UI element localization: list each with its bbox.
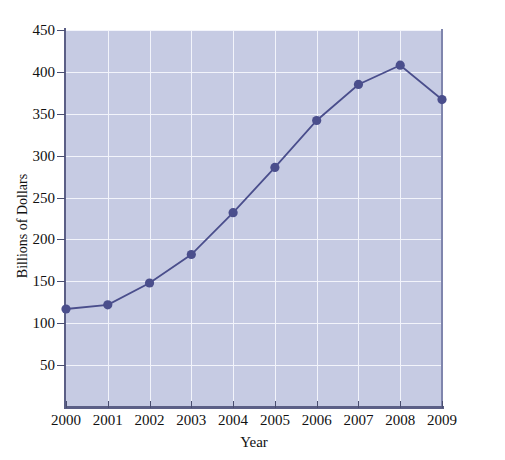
gridline-vertical — [400, 30, 401, 407]
y-tick-mark — [57, 198, 65, 199]
gridline-horizontal — [66, 30, 442, 31]
y-tick-label: 250 — [33, 189, 56, 206]
gridline-horizontal — [66, 281, 442, 282]
plot-area — [66, 30, 442, 407]
x-tick-label: 2005 — [260, 412, 290, 429]
x-tick-mark — [400, 401, 401, 408]
x-tick-mark — [358, 401, 359, 408]
y-tick-mark — [57, 30, 65, 31]
gridline-vertical — [358, 30, 359, 407]
x-tick-label: 2002 — [135, 412, 165, 429]
x-tick-label: 2009 — [427, 412, 457, 429]
x-tick-label: 2000 — [51, 412, 81, 429]
gridline-vertical — [150, 30, 151, 407]
x-tick-label: 2007 — [343, 412, 373, 429]
x-tick-label: 2003 — [176, 412, 206, 429]
y-tick-label: 200 — [33, 231, 56, 248]
gridline-vertical — [233, 30, 234, 407]
y-axis-line — [64, 28, 66, 409]
y-axis-title: Billions of Dollars — [15, 141, 31, 311]
gridline-vertical — [191, 30, 192, 407]
gridline-vertical — [317, 30, 318, 407]
x-tick-mark — [191, 401, 192, 408]
x-axis-title: Year — [66, 434, 442, 451]
y-tick-label: 150 — [33, 273, 56, 290]
x-tick-label: 2006 — [302, 412, 332, 429]
y-tick-label: 100 — [33, 315, 56, 332]
y-tick-mark — [57, 114, 65, 115]
plot-right-border — [441, 29, 443, 408]
x-axis-line — [64, 406, 444, 409]
gridline-vertical — [275, 30, 276, 407]
gridline-horizontal — [66, 198, 442, 199]
x-tick-mark — [66, 401, 67, 408]
x-tick-mark — [275, 401, 276, 408]
x-tick-mark — [317, 401, 318, 408]
y-tick-mark — [57, 156, 65, 157]
cropped-header-text — [18, 0, 198, 5]
gridline-horizontal — [66, 114, 442, 115]
y-tick-mark — [57, 323, 65, 324]
x-tick-mark — [442, 401, 443, 408]
chart-figure: 50100150200250300350400450 2000200120022… — [0, 0, 505, 460]
gridline-vertical — [108, 30, 109, 407]
gridline-horizontal — [66, 365, 442, 366]
y-tick-label: 450 — [33, 22, 56, 39]
y-tick-mark — [57, 365, 65, 366]
gridline-horizontal — [66, 156, 442, 157]
x-tick-label: 2008 — [385, 412, 415, 429]
gridline-horizontal — [66, 323, 442, 324]
y-tick-mark — [57, 239, 65, 240]
gridline-horizontal — [66, 239, 442, 240]
x-tick-label: 2001 — [93, 412, 123, 429]
y-tick-label: 350 — [33, 105, 56, 122]
gridline-horizontal — [66, 72, 442, 73]
x-tick-mark — [108, 401, 109, 408]
y-tick-mark — [57, 72, 65, 73]
y-tick-label: 300 — [33, 147, 56, 164]
y-tick-label: 50 — [40, 357, 55, 374]
x-tick-mark — [233, 401, 234, 408]
x-tick-label: 2004 — [218, 412, 248, 429]
x-tick-mark — [150, 401, 151, 408]
y-tick-mark — [57, 281, 65, 282]
y-tick-label: 400 — [33, 63, 56, 80]
